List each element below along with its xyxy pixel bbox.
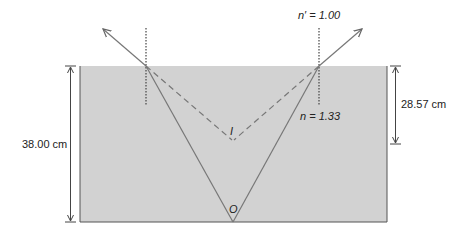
water-region <box>80 66 387 222</box>
object-point-label: O <box>229 203 238 215</box>
water-index-label: n = 1.33 <box>300 110 340 122</box>
left-refracted-ray <box>103 29 146 66</box>
air-index-label: n′ = 1.00 <box>298 9 340 21</box>
right-refracted-ray <box>319 29 362 66</box>
refraction-diagram <box>0 0 466 235</box>
apparent-depth-label: 28.57 cm <box>401 98 446 110</box>
actual-depth-label: 38.00 cm <box>22 138 67 150</box>
image-point-label: I <box>230 125 233 137</box>
